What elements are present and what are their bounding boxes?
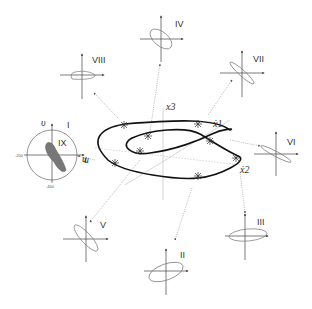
inset-II-label: II bbox=[180, 250, 185, 260]
inset-VII-label: VII bbox=[253, 54, 264, 64]
inset-III-label: III bbox=[257, 217, 265, 227]
inset-I: I IX υ u -200 -400 bbox=[15, 117, 89, 189]
inset-VI-label: VI bbox=[287, 137, 296, 147]
inset-IX-label: IX bbox=[58, 138, 67, 148]
inset-VIII: VIII bbox=[60, 54, 106, 99]
inset-II: II bbox=[144, 249, 188, 295]
inset-I-axis-v: υ bbox=[41, 117, 46, 128]
axis-label-x3: x3 bbox=[165, 101, 175, 112]
inset-I-tick-bottom: -400 bbox=[46, 184, 55, 189]
inset-I-tick-left: -200 bbox=[15, 153, 24, 158]
axis-label-x1: ẋ1 bbox=[212, 118, 222, 129]
phase-curve bbox=[98, 121, 241, 178]
inset-VIII-label: VIII bbox=[92, 55, 106, 65]
inset-VII: VII bbox=[220, 51, 264, 97]
axis-label-x2: ẋ2 bbox=[239, 164, 249, 175]
inset-IV-label: IV bbox=[175, 19, 184, 29]
inset-VI: VI bbox=[254, 132, 298, 176]
inset-I-axis-u: u bbox=[84, 154, 89, 165]
inset-IV: IV bbox=[140, 16, 184, 62]
diagram-canvas: x3 ẋ1 ẋ2 u I IX υ u -200 -400 IV VIII … bbox=[0, 0, 312, 309]
inset-III: III bbox=[225, 214, 268, 260]
inset-V-label: V bbox=[100, 220, 106, 230]
inset-V: V bbox=[63, 216, 108, 262]
inset-I-label: I bbox=[67, 120, 70, 130]
leader-lines bbox=[90, 64, 260, 240]
